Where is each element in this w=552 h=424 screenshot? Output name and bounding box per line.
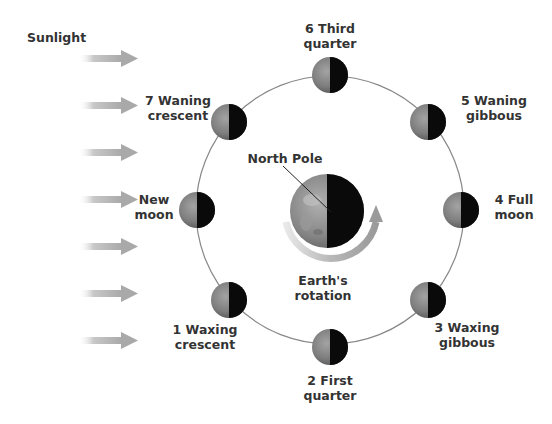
phase-label-3: 3 Waxing gibbous [427, 320, 507, 350]
sunlight-arrows [78, 50, 138, 349]
phase-label-6: 6 Third quarter [290, 21, 370, 51]
phase-label-new: New moon [134, 192, 174, 222]
north-pole-label: North Pole [245, 151, 325, 166]
moon-phase-2-icon [312, 329, 348, 365]
moon-phase-3-icon [410, 282, 446, 318]
sunlight-label: Sunlight [27, 30, 86, 45]
sunlight-arrow-icon [78, 97, 138, 114]
earth-icon [290, 174, 364, 248]
moon-phase-new-icon [179, 192, 215, 228]
sunlight-arrow-icon [78, 144, 138, 161]
earth-rotation-label: Earth's rotation [283, 273, 363, 303]
sunlight-arrow-icon [78, 191, 138, 208]
diagram-canvas [0, 0, 552, 424]
moon-phases-diagram: Sunlight North Pole Earth's rotation 6 T… [0, 0, 552, 424]
phase-label-2: 2 First quarter [290, 373, 370, 403]
moon-phase-1-icon [211, 282, 247, 318]
sunlight-arrow-icon [78, 332, 138, 349]
moon-phase-6-icon [312, 57, 348, 93]
sunlight-arrow-icon [78, 238, 138, 255]
moon-phase-4-icon [443, 192, 479, 228]
moon-phase-5-icon [410, 104, 446, 140]
sunlight-arrow-icon [78, 50, 138, 67]
phase-label-7: 7 Waning crescent [138, 93, 218, 123]
sunlight-arrow-icon [78, 285, 138, 302]
phase-label-1: 1 Waxing crescent [160, 322, 250, 352]
phase-label-4: 4 Full moon [484, 192, 544, 222]
phase-label-5: 5 Waning gibbous [454, 93, 534, 123]
